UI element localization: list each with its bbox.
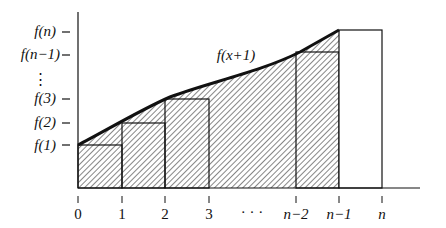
y-label-f-n: f(n) bbox=[34, 23, 56, 40]
x-label-n-minus-2: n−2 bbox=[283, 206, 309, 222]
rect-n1-n bbox=[339, 30, 382, 188]
x-label-n-minus-1: n−1 bbox=[326, 206, 351, 222]
x-label-ellipsis: · · · bbox=[241, 204, 264, 220]
x-label-2: 2 bbox=[161, 206, 169, 222]
x-ticks bbox=[78, 196, 382, 203]
y-label-f-n-minus-1: f(n−1) bbox=[21, 46, 60, 63]
x-label-3: 3 bbox=[205, 206, 213, 222]
y-label-f-3: f(3) bbox=[34, 90, 56, 107]
x-label-n: n bbox=[378, 206, 386, 222]
x-labels: 0 1 2 3 · · · n−2 n−1 n bbox=[74, 204, 386, 222]
y-labels: f(n) f(n−1) ⋮ f(3) f(2) f(1) bbox=[21, 23, 60, 154]
x-label-1: 1 bbox=[118, 206, 126, 222]
y-label-vertical-ellipsis: ⋮ bbox=[33, 71, 48, 87]
curve-label: f(x+1) bbox=[217, 47, 255, 64]
y-ticks bbox=[62, 32, 70, 145]
y-label-f-1: f(1) bbox=[34, 137, 56, 154]
sum-integral-diagram: f(n) f(n−1) ⋮ f(3) f(2) f(1) f(x+1) 0 1 … bbox=[0, 0, 446, 228]
y-label-f-2: f(2) bbox=[34, 114, 56, 131]
x-label-0: 0 bbox=[74, 206, 82, 222]
